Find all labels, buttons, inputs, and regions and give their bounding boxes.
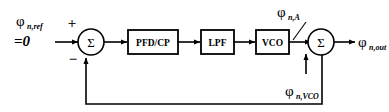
- label-phi-nvco-subscript: n,VCO: [296, 92, 319, 101]
- label-input-subscript: n,ref: [27, 22, 44, 31]
- label-vco-noise: φ n,VCO: [285, 83, 319, 101]
- block-diagram-canvas: Σ + − Σ PFD/CP LPF VCO φ n,ref =0: [0, 0, 389, 112]
- input-summer-sigma: Σ: [87, 35, 95, 50]
- label-phi-nvco-phi: φ: [285, 83, 294, 99]
- phi-na-leader-line: [293, 22, 306, 40]
- block-vco-label: VCO: [262, 38, 283, 48]
- label-input-signal: φ n,ref =0: [14, 13, 44, 49]
- input-summer-minus-sign: −: [69, 51, 78, 67]
- label-vco-amp-noise: φ n,A: [277, 4, 300, 22]
- label-output-subscript: n,out: [369, 43, 387, 52]
- block-pfd-cp: PFD/CP: [128, 30, 178, 54]
- block-lpf-label: LPF: [209, 38, 227, 48]
- label-phi-na-subscript: n,A: [288, 13, 300, 22]
- block-lpf: LPF: [201, 30, 234, 54]
- label-output-phi: φ: [358, 34, 367, 50]
- output-summer-sigma: Σ: [317, 35, 325, 50]
- label-input-phi: φ: [16, 13, 25, 29]
- block-diagram-svg: Σ + − Σ PFD/CP LPF VCO φ n,ref =0: [0, 0, 389, 112]
- label-input-value: =0: [14, 33, 31, 49]
- label-phi-na-phi: φ: [277, 4, 286, 20]
- block-pfd-cp-label: PFD/CP: [136, 38, 170, 48]
- output-summer: Σ: [308, 29, 334, 55]
- leader-line-phi-na: [293, 22, 306, 40]
- label-output-signal: φ n,out: [358, 34, 387, 52]
- input-summer-plus-sign: +: [68, 15, 77, 31]
- block-vco: VCO: [256, 30, 289, 54]
